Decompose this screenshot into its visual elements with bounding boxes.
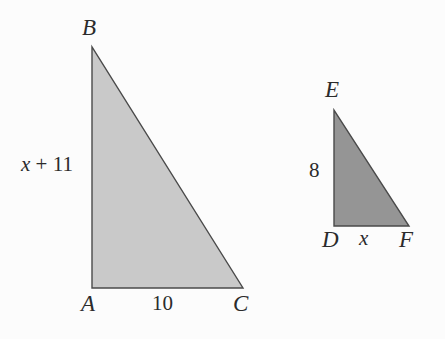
side-label-ab-variable: x [21, 152, 30, 176]
vertex-label-f: F [399, 228, 413, 251]
vertex-label-b: B [82, 16, 96, 39]
vertex-label-d: D [322, 228, 339, 251]
side-label-ab: x + 11 [21, 154, 73, 175]
vertex-label-e: E [325, 78, 339, 101]
side-label-ac: 10 [152, 293, 173, 314]
triangle-abc-shape [92, 47, 243, 288]
triangle-def-shape [334, 110, 409, 226]
side-label-ab-rest: + 11 [30, 152, 73, 176]
vertex-label-c: C [233, 292, 248, 315]
vertex-label-a: A [81, 292, 95, 315]
geometry-figure: B A C x + 11 10 E D F 8 x [0, 0, 445, 339]
side-label-df: x [359, 228, 368, 249]
side-label-de: 8 [309, 160, 320, 181]
